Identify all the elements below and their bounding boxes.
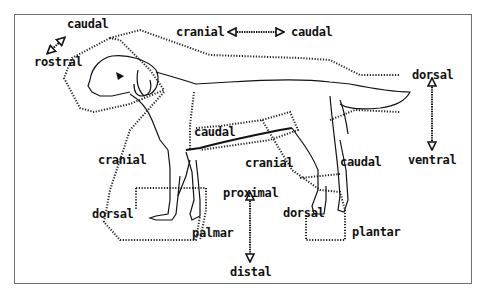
label-caudal-top: caudal	[291, 26, 333, 38]
label-caudal-topleft: caudal	[67, 18, 109, 30]
label-dorsal-foreleg: dorsal	[92, 208, 134, 220]
label-distal: distal	[230, 266, 272, 278]
rostral-caudal-arrow-icon	[50, 40, 62, 51]
dog-anatomy-drawing	[0, 0, 484, 298]
label-cranial-hindleg: cranial	[245, 157, 293, 169]
label-cranial-foreleg: cranial	[98, 154, 146, 166]
label-cranial-top: cranial	[176, 26, 224, 38]
label-rostral: rostral	[34, 56, 82, 68]
label-dorsal-right: dorsal	[412, 69, 454, 81]
label-dorsal-hindleg: dorsal	[283, 207, 325, 219]
label-caudal-hindleg: caudal	[340, 156, 382, 168]
label-palmar: palmar	[192, 227, 234, 239]
label-proximal: proximal	[223, 187, 278, 199]
label-caudal-foreleg: caudal	[194, 126, 236, 138]
label-plantar: plantar	[352, 226, 400, 238]
eye-icon	[116, 72, 124, 80]
label-ventral: ventral	[408, 154, 456, 166]
